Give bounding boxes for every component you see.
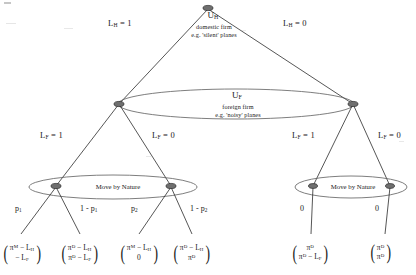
game-tree-diagram: UH domestic firm e.g. 'silent' planes LH… xyxy=(0,0,416,275)
payoff-vector-2: ( πD − LH πD − LF ) xyxy=(60,243,99,264)
branch-label-lf-right-0: LF = 0 xyxy=(378,131,401,141)
payoff-1-top: πM − LH xyxy=(10,243,34,253)
paren-open: ( xyxy=(292,244,297,262)
paren-close: ) xyxy=(93,244,98,262)
probability-one-minus-p2: 1 - p2 xyxy=(190,205,207,214)
edge-nature2-left xyxy=(139,187,171,234)
node-nature-4 xyxy=(386,184,395,189)
paren-open: ( xyxy=(120,244,125,262)
payoff-4-bottom: πD xyxy=(188,253,195,262)
node-uf-right xyxy=(348,101,358,106)
payoff-6-top: πD xyxy=(377,243,384,252)
branch-label-lf-right-1: LF = 1 xyxy=(292,131,315,141)
branch-label-lf-left-0: LF = 0 xyxy=(152,131,175,141)
paren-close: ) xyxy=(205,244,210,262)
payoff-4-top: πD − LH xyxy=(180,243,204,253)
payoff-vector-3: ( πM − LH 0 ) xyxy=(119,243,159,263)
payoff-3-top: πM − LH xyxy=(127,243,151,253)
root-node-label: UH xyxy=(198,11,228,21)
paren-close: ) xyxy=(323,244,328,262)
scan-artifact xyxy=(4,2,11,4)
payoff-1-bottom: − LF xyxy=(15,253,28,263)
scan-artifact xyxy=(146,156,151,157)
branch-label-lh-0: LH = 0 xyxy=(283,19,307,29)
edge-uf-left-to-nature-left xyxy=(56,104,119,186)
node-nature-2 xyxy=(166,183,176,188)
edge-uf-left-to-nature-right xyxy=(119,104,171,186)
payoff-vector-4: ( πD − LH πD ) xyxy=(172,243,211,263)
paren-close: ) xyxy=(153,244,158,262)
paren-open: ( xyxy=(173,244,178,262)
scan-artifact xyxy=(6,23,16,24)
payoff-3-bottom: 0 xyxy=(137,253,141,262)
edge-nature3-right xyxy=(385,187,390,234)
payoff-5-bottom: πD − LF xyxy=(299,252,322,262)
probability-zero-left: 0 xyxy=(300,205,304,213)
payoff-vector-6: ( πD πD ) xyxy=(369,243,392,262)
paren-open: ( xyxy=(370,243,375,261)
payoff-5-top: πD xyxy=(306,243,313,252)
node-nature-3 xyxy=(309,184,318,189)
scan-artifact xyxy=(399,141,404,142)
payoff-vector-1: ( πM − LH − LF ) xyxy=(2,243,42,264)
info-set-label-uf: UF xyxy=(222,91,252,101)
probability-p2: p2 xyxy=(131,205,138,214)
payoff-6-bottom: πD xyxy=(377,252,384,261)
paren-close: ) xyxy=(36,244,41,262)
branch-label-lh-1: LH = 1 xyxy=(108,19,132,29)
probability-zero-right: 0 xyxy=(375,205,379,213)
probability-one-minus-p1: 1 - p1 xyxy=(80,205,97,214)
edge-uf-right-to-nature-left xyxy=(313,104,353,186)
edge-uf-right-to-nature-right xyxy=(353,104,390,186)
probability-p1: p1 xyxy=(15,205,22,214)
paren-close: ) xyxy=(386,243,391,261)
info-set-subtitle-line2: e.g. 'noisy' planes xyxy=(185,112,291,119)
edge-nature1-left xyxy=(21,187,56,234)
nature-label-right: Move by Nature xyxy=(322,183,384,190)
payoff-vector-5: ( πD πD − LF ) xyxy=(291,243,329,263)
root-node-subtitle-line2: e.g. 'silent' planes xyxy=(161,32,267,39)
paren-open: ( xyxy=(3,244,8,262)
branch-label-lf-left-1: LF = 1 xyxy=(40,131,63,141)
scan-artifact xyxy=(64,28,73,29)
edge-nature1-right xyxy=(56,187,80,234)
paren-open: ( xyxy=(61,244,66,262)
info-set-subtitle-line1: foreign firm xyxy=(192,104,284,111)
node-uf-left xyxy=(114,101,124,106)
edge-nature3-left xyxy=(311,187,313,234)
nature-label-left: Move by Nature xyxy=(83,183,153,190)
node-nature-1 xyxy=(51,183,61,188)
payoff-2-bottom: πD − LF xyxy=(68,253,91,263)
root-node-subtitle-line1: domestic firm xyxy=(168,24,260,31)
payoff-2-top: πD − LH xyxy=(68,243,92,253)
